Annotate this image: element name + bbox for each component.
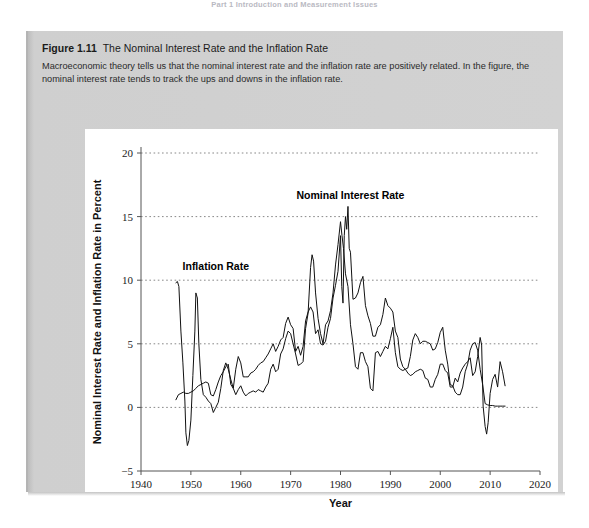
chart-series xyxy=(176,206,505,445)
annotation-inflation-rate: Inflation Rate xyxy=(183,260,250,272)
x-axis-title: Year xyxy=(329,497,353,508)
svg-text:15: 15 xyxy=(122,211,134,223)
svg-text:1980: 1980 xyxy=(330,478,353,490)
svg-text:1960: 1960 xyxy=(230,478,253,490)
figure-number: Figure 1.11 xyxy=(42,42,97,54)
svg-text:−5: −5 xyxy=(121,465,133,477)
figure-shadow xyxy=(28,492,565,496)
figure-container: Figure 1.11 The Nominal Interest Rate an… xyxy=(26,31,563,492)
svg-text:0: 0 xyxy=(128,401,134,413)
figure-description: Macroeconomic theory tells us that the n… xyxy=(42,60,547,85)
svg-text:1950: 1950 xyxy=(180,478,203,490)
figure-title-line: Figure 1.11 The Nominal Interest Rate an… xyxy=(42,42,547,55)
svg-text:20: 20 xyxy=(122,147,134,159)
svg-text:10: 10 xyxy=(122,274,134,286)
svg-text:2020: 2020 xyxy=(529,478,552,490)
svg-text:2010: 2010 xyxy=(479,478,502,490)
y-axis-title: Nominal Interest Rate and Inflation Rate… xyxy=(91,179,103,444)
figure-caption: Figure 1.11 The Nominal Interest Rate an… xyxy=(42,42,547,85)
svg-text:5: 5 xyxy=(128,338,134,350)
figure-title: The Nominal Interest Rate and the Inflat… xyxy=(103,42,328,54)
annotation-nominal-interest-rate: Nominal Interest Rate xyxy=(296,189,404,201)
chart-panel: −505101520194019501960197019801990200020… xyxy=(85,129,558,508)
chart-annotations: Inflation RateNominal Interest Rate xyxy=(183,189,405,272)
svg-text:1940: 1940 xyxy=(130,478,153,490)
svg-text:1990: 1990 xyxy=(379,478,402,490)
running-head: Part 1 Introduction and Measurement Issu… xyxy=(0,0,589,10)
svg-text:1970: 1970 xyxy=(280,478,303,490)
svg-text:2000: 2000 xyxy=(429,478,452,490)
series-line-nominal-interest-rate xyxy=(176,206,505,406)
line-chart: −505101520194019501960197019801990200020… xyxy=(85,129,558,508)
